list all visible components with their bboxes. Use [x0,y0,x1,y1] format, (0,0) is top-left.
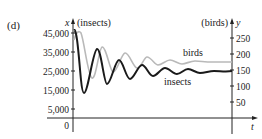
right-tick-250: 250 [236,34,251,44]
arrow-up-icon [230,18,234,24]
right-axis-var: y [235,17,241,28]
right-tick-200: 200 [236,50,251,60]
panel-label: (d) [7,19,20,32]
left-axis-label: (insects) [77,17,111,29]
t-axis: t [47,116,258,132]
left-tick-5000: 5,000 [48,105,70,115]
left-tick-15000: 15,000 [43,86,69,96]
right-tick-50: 50 [236,98,246,108]
right-axis-label: (birds) [201,17,228,29]
right-tick-100: 100 [236,82,251,92]
t-axis-var: t [251,121,254,132]
insects-label: insects [164,76,191,87]
right-tick-150: 150 [236,66,251,76]
predator-prey-chart: (d) x (insects) 45,000 35,000 25,000 15,… [0,0,262,139]
left-axis-var: x [64,17,70,28]
origin-label: 0 [64,121,69,131]
arrow-up-icon [71,18,75,24]
left-tick-45000: 45,000 [43,29,69,39]
arrow-right-icon [252,116,258,120]
birds-label: birds [183,47,203,58]
right-axis: (birds) y 250 200 150 100 50 [201,17,250,134]
left-tick-35000: 35,000 [43,48,69,58]
left-tick-25000: 25,000 [43,67,69,77]
